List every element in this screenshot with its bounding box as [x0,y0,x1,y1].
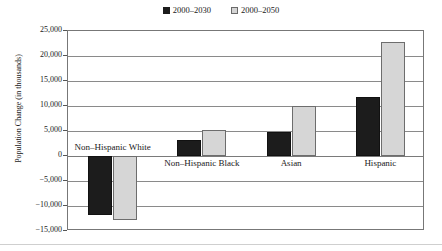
bar-hispanic-series-0 [356,97,380,157]
legend-item-0: 2000–2030 [163,5,211,15]
bar-non-hispanic-black-series-1 [202,130,226,156]
bar-asian-series-1 [292,106,316,156]
legend-label-0: 2000–2030 [173,5,211,15]
bar-non-hispanic-white-series-0 [88,156,112,215]
y-tick-label: −10,000 [35,201,62,209]
y-tick-label: 20,000 [40,51,62,59]
gridline [68,81,423,82]
figure-bottom-rule [0,244,442,245]
category-label-non-hispanic-white: Non–Hispanic White [48,142,177,152]
legend-item-1: 2000–2050 [231,5,279,15]
y-tick-label: 0 [58,151,62,159]
bar-non-hispanic-white-series-1 [113,156,137,220]
y-axis: Population Change (in thousands) 25,0002… [0,30,67,230]
y-tick-label: 10,000 [40,101,62,109]
y-tick-label: 15,000 [40,76,62,84]
bar-hispanic-series-1 [381,42,405,156]
chart-legend: 2000–2030 2000–2050 [0,3,442,17]
legend-swatch-dark-icon [163,7,170,14]
y-tick-label: 5,000 [44,126,62,134]
y-tick-label: −15,000 [35,226,62,234]
bar-non-hispanic-black-series-0 [177,140,201,157]
legend-swatch-light-icon [231,7,238,14]
legend-label-1: 2000–2050 [241,5,279,15]
y-tick-label: 25,000 [40,26,62,34]
plot-area: Non–Hispanic WhiteNon–Hispanic BlackAsia… [67,30,424,230]
chart-figure: 2000–2030 2000–2050 Population Change (i… [0,0,442,251]
y-tick-label: −5,000 [39,176,62,184]
bar-asian-series-0 [267,132,291,157]
gridline [68,56,423,57]
category-label-hispanic: Hispanic [316,158,442,168]
y-axis-title: Population Change (in thousands) [14,29,23,189]
